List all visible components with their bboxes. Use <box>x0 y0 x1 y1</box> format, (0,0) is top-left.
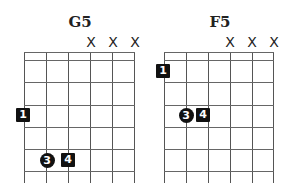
mute-x-icon: X <box>106 35 120 49</box>
fret-line <box>164 149 274 150</box>
chord-diagram-f5: F5 X X X 1 3 4 <box>140 0 288 194</box>
nut-line <box>164 52 274 53</box>
finger-1-marker: 1 <box>16 108 30 122</box>
fret-line <box>24 82 135 83</box>
mute-x-icon: X <box>223 35 237 49</box>
string-line <box>134 52 135 183</box>
mute-x-icon: X <box>245 35 259 49</box>
nut-line <box>24 52 135 53</box>
mute-x-icon: X <box>84 35 98 49</box>
fret-line <box>164 171 274 172</box>
chord-title: F5 <box>190 14 250 30</box>
mute-x-icon: X <box>267 35 281 49</box>
fret-line <box>164 105 274 106</box>
fret-line <box>164 82 274 83</box>
string-line <box>230 52 231 183</box>
finger-4-marker: 4 <box>61 153 75 167</box>
fret-line <box>24 149 135 150</box>
fret-line <box>24 105 135 106</box>
fret-line <box>164 127 274 128</box>
fret-line <box>24 171 135 172</box>
string-line <box>273 52 274 183</box>
chord-title: G5 <box>50 14 110 30</box>
string-line <box>252 52 253 183</box>
finger-4-marker: 4 <box>196 108 210 122</box>
finger-1-marker: 1 <box>156 64 170 78</box>
string-line <box>112 52 113 183</box>
string-line <box>90 52 91 183</box>
chord-diagram-g5: G5 X X X 1 3 4 <box>0 0 148 194</box>
nut-line <box>164 60 274 61</box>
finger-3-marker: 3 <box>179 108 194 123</box>
nut-line <box>24 60 135 61</box>
finger-3-marker: 3 <box>40 153 55 168</box>
fret-line <box>24 127 135 128</box>
